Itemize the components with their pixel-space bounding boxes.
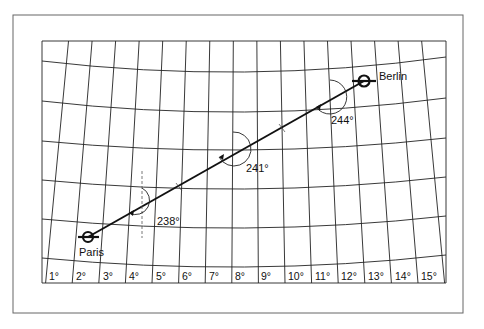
bearing-label-238: 238° <box>157 215 180 227</box>
longitude-label: 2° <box>76 270 86 282</box>
berlin-label: Berlin <box>379 70 407 82</box>
longitude-label: 5° <box>156 270 166 282</box>
longitude-label: 7° <box>209 270 219 282</box>
longitude-label: 14° <box>395 270 411 282</box>
longitude-label: 11° <box>315 270 330 282</box>
paris-label: Paris <box>79 246 105 258</box>
longitude-label: 1° <box>49 270 59 282</box>
longitude-label: 9° <box>261 270 271 282</box>
longitude-label: 12° <box>341 270 357 282</box>
longitude-label: 10° <box>288 270 304 282</box>
longitude-label: 8° <box>235 270 245 282</box>
longitude-label: 13° <box>368 270 384 282</box>
bearing-label-241: 241° <box>246 162 269 174</box>
route-map: 1°2°3°4°5°6°7°8°9°10°11°12°13°14°15° Par… <box>0 0 484 329</box>
longitude-label: 6° <box>182 270 192 282</box>
outer-frame <box>13 15 463 313</box>
longitude-labels: 1°2°3°4°5°6°7°8°9°10°11°12°13°14°15° <box>49 270 437 282</box>
bearing-label-244: 244° <box>331 114 354 126</box>
longitude-label: 3° <box>103 270 113 282</box>
longitude-label: 15° <box>421 270 437 282</box>
longitude-label: 4° <box>129 270 139 282</box>
